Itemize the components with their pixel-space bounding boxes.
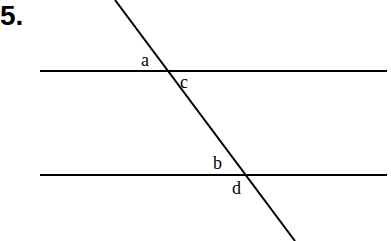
- diagram-canvas: 5. a c b d: [0, 0, 391, 241]
- angle-label-d: d: [232, 178, 241, 198]
- transversal-line: [115, 0, 295, 241]
- parallel-lines-transversal-figure: a c b d: [0, 0, 391, 241]
- angle-label-a: a: [141, 50, 149, 70]
- angle-label-b: b: [213, 153, 222, 173]
- angle-label-c: c: [180, 72, 188, 92]
